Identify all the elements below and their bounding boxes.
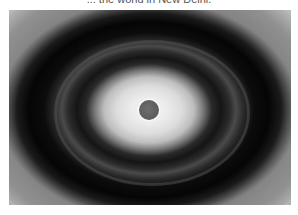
diffraction-image — [9, 10, 291, 205]
image-caption: ... the world in New Delhi. — [0, 0, 298, 5]
central-beam-spot — [139, 100, 159, 120]
